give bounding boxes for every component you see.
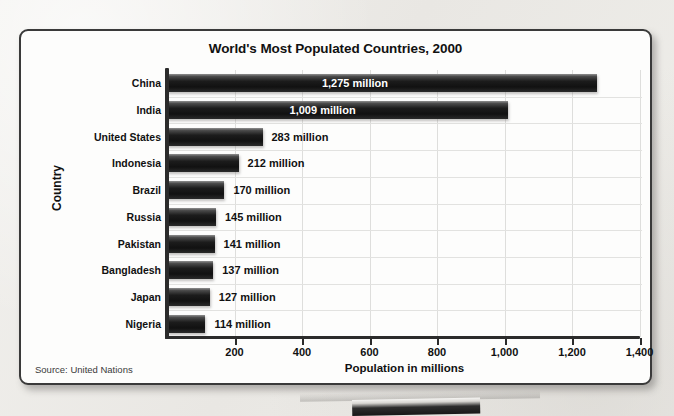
bar-value-label: 283 million: [272, 131, 329, 143]
bar-value-label: 145 million: [225, 211, 282, 223]
gridline-horizontal: [167, 97, 642, 98]
bar-value-label: 114 million: [214, 318, 270, 330]
bar[interactable]: [167, 288, 210, 306]
bar[interactable]: [167, 208, 216, 226]
bar[interactable]: [167, 315, 205, 333]
chart-title: World's Most Populated Countries, 2000: [21, 41, 650, 56]
x-axis-tick: [302, 338, 304, 345]
category-label: Nigeria: [41, 318, 161, 330]
gridline-horizontal: [167, 230, 642, 231]
gridline-horizontal: [167, 257, 642, 258]
x-axis-tick-label: 1,000: [475, 346, 535, 358]
x-axis-tick-label: 200: [205, 346, 265, 358]
x-axis-tick: [640, 338, 642, 345]
bar[interactable]: [167, 128, 263, 146]
x-axis-tick-label: 600: [340, 346, 400, 358]
x-axis-tick-label: 1,200: [542, 346, 602, 358]
bar[interactable]: [167, 261, 213, 279]
category-label: Brazil: [41, 184, 161, 196]
category-label: India: [41, 104, 161, 116]
category-label-column: ChinaIndiaUnited StatesIndonesiaBrazilRu…: [39, 70, 161, 337]
bar-value-label: 1,009 million: [290, 104, 356, 116]
x-axis-tick: [572, 338, 574, 345]
x-axis-tick-label: 400: [272, 346, 332, 358]
bar[interactable]: [167, 154, 239, 172]
x-axis-tick-label: 1,400: [610, 346, 670, 358]
gridline-horizontal: [167, 310, 642, 311]
x-axis-tick: [235, 338, 237, 345]
gridline-horizontal: [167, 284, 642, 285]
category-label: Bangladesh: [41, 264, 161, 276]
bar[interactable]: [167, 181, 224, 199]
bar[interactable]: [167, 235, 215, 253]
bar-value-label: 170 million: [233, 184, 290, 196]
x-axis-tick-label: 800: [407, 346, 467, 358]
source-note: Source: United Nations: [35, 364, 133, 375]
category-label: Pakistan: [41, 238, 161, 250]
x-axis-tick: [370, 338, 372, 345]
bar-value-label: 137 million: [222, 264, 279, 276]
gridline-horizontal: [167, 123, 642, 124]
x-axis-tick: [505, 338, 507, 345]
gridline-horizontal: [167, 177, 642, 178]
category-label: Indonesia: [41, 157, 161, 169]
x-axis-title: Population in millions: [167, 362, 642, 374]
category-label: China: [41, 77, 161, 89]
x-axis-tick: [437, 338, 439, 345]
bar-value-label: 141 million: [224, 238, 281, 250]
bar-value-label: 127 million: [219, 291, 276, 303]
plot-area: 1,275 million1,009 million283 million212…: [167, 70, 654, 337]
y-axis-line: [165, 68, 169, 339]
gridline-horizontal: [167, 150, 642, 151]
category-label: Japan: [41, 291, 161, 303]
chart-card: World's Most Populated Countries, 2000 C…: [19, 29, 652, 385]
category-label: United States: [41, 131, 161, 143]
adjacent-figure-sliver: [352, 398, 480, 416]
category-label: Russia: [41, 211, 161, 223]
gridline-horizontal: [167, 204, 642, 205]
bar-value-label: 1,275 million: [322, 77, 388, 89]
bar-value-label: 212 million: [248, 157, 305, 169]
